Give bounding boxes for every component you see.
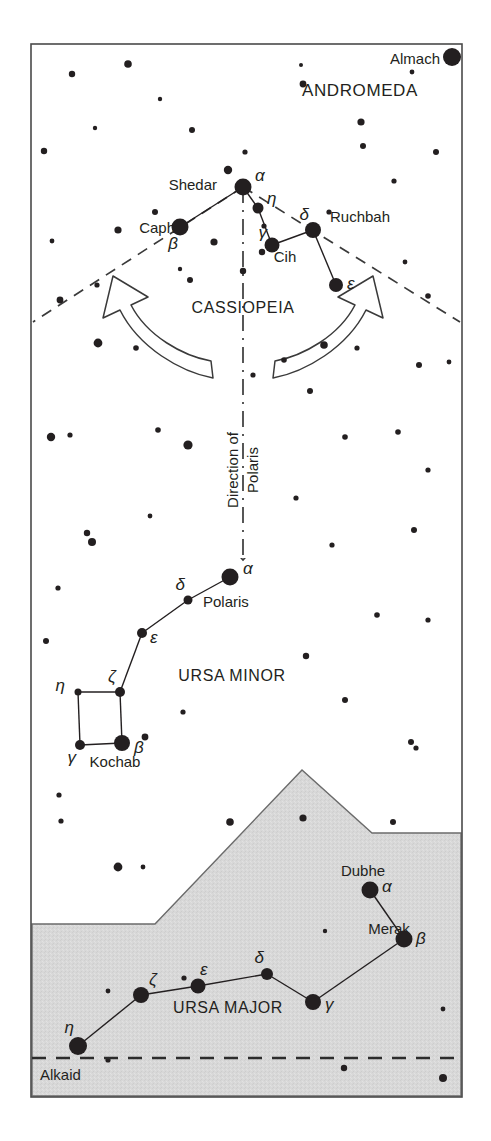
field-star: [106, 989, 111, 994]
bayer-label-δ: δ: [176, 575, 186, 594]
constellation-name-ursa-major: URSA MAJOR: [173, 999, 283, 1016]
constellation-name-cassiopeia: CASSIOPEIA: [192, 299, 295, 316]
direction-note-line-1: Direction of: [224, 431, 241, 508]
field-star: [416, 362, 422, 368]
field-star: [320, 341, 328, 349]
star-ursa-minor-γ: [75, 740, 85, 750]
direction-note-line-2: Polaris: [244, 447, 261, 493]
field-star: [50, 239, 55, 244]
star-cassiopeia-ε: [329, 278, 343, 292]
bayer-label-ζ: ζ: [108, 667, 117, 686]
field-star: [69, 71, 75, 77]
star-name-shedar: Shedar: [169, 176, 217, 193]
bayer-label-ε: ε: [347, 274, 355, 293]
star-ursa-major-ζ: [133, 987, 149, 1003]
bayer-label-η: η: [56, 676, 65, 695]
star-ursa-minor-η: [75, 689, 82, 696]
bayer-label-α: α: [382, 877, 393, 896]
star-ursa-major-γ: [305, 994, 321, 1010]
field-star: [408, 739, 414, 745]
bayer-label-ε: ε: [200, 960, 208, 979]
star-ursa-major-ε: [191, 979, 206, 994]
field-star: [58, 818, 63, 823]
field-star: [390, 819, 396, 825]
star-ursa-minor-ε: [137, 628, 147, 638]
field-star: [341, 1065, 347, 1071]
field-star: [148, 514, 153, 519]
field-star: [410, 70, 415, 75]
field-star: [425, 467, 430, 472]
field-star: [141, 865, 146, 870]
bayer-label-β: β: [167, 234, 178, 253]
field-star: [360, 143, 366, 149]
field-star: [114, 863, 123, 872]
field-star: [189, 127, 195, 133]
star-alkaid: [69, 1037, 87, 1055]
field-star: [226, 818, 234, 826]
field-star: [240, 268, 246, 274]
field-star: [133, 345, 139, 351]
bayer-label-α: α: [243, 559, 254, 578]
field-star: [425, 617, 430, 622]
field-star: [94, 339, 103, 348]
field-star: [57, 297, 64, 304]
bayer-label-ε: ε: [150, 628, 158, 647]
star-kochab: [114, 735, 130, 751]
field-star: [413, 745, 418, 750]
star-name-kochab: Kochab: [90, 753, 141, 770]
field-star: [55, 585, 60, 590]
field-star: [94, 282, 99, 287]
field-star: [307, 388, 313, 394]
field-star: [88, 538, 96, 546]
bayer-label-δ: δ: [255, 948, 265, 967]
field-star: [403, 260, 408, 265]
star-ursa-major-δ: [261, 968, 273, 980]
constellation-name-ursa-minor: URSA MINOR: [178, 667, 285, 684]
star-name-polaris: Polaris: [203, 593, 249, 610]
field-star: [357, 118, 364, 125]
field-star: [124, 60, 132, 68]
field-star: [181, 975, 186, 980]
field-star: [224, 166, 232, 174]
field-star: [158, 97, 162, 101]
star-ursa-minor-δ: [184, 596, 193, 605]
field-star: [93, 126, 97, 130]
field-star: [299, 814, 306, 821]
field-star: [84, 530, 90, 536]
field-star: [56, 792, 61, 797]
sky-map-canvas: αβηγδεαδεζηγβαβγδεζη ANDROMEDACASSIOPEIA…: [0, 0, 491, 1141]
star-name-cih: Cih: [274, 248, 297, 265]
star-polaris: [222, 569, 239, 586]
field-star: [114, 226, 121, 233]
star-name-caph: Caph: [139, 219, 175, 236]
star-chart-figure: αβηγδεαδεζηγβαβγδεζη ANDROMEDACASSIOPEIA…: [0, 0, 491, 1141]
bayer-label-α: α: [255, 166, 266, 185]
star-name-merak: Merak: [368, 920, 410, 937]
star-name-almach: Almach: [390, 50, 440, 67]
field-star: [342, 434, 348, 440]
field-star: [441, 1007, 446, 1012]
field-star: [281, 357, 287, 363]
star-name-alkaid: Alkaid: [40, 1066, 81, 1083]
star-name-ruchbah: Ruchbah: [330, 208, 390, 225]
field-star: [433, 149, 439, 155]
field-star: [155, 427, 161, 433]
bayer-label-ζ: ζ: [149, 970, 158, 989]
field-star: [259, 249, 265, 255]
field-star: [178, 267, 182, 271]
star-name-dubhe: Dubhe: [341, 862, 385, 879]
field-star: [250, 372, 255, 377]
field-star: [411, 527, 417, 533]
bayer-label-η: η: [267, 189, 276, 208]
field-star: [187, 277, 193, 283]
star-dubhe: [362, 882, 379, 899]
field-star: [303, 653, 309, 659]
field-star: [180, 709, 185, 714]
star-shedar: [235, 179, 252, 196]
field-star: [47, 433, 55, 441]
field-star: [43, 638, 49, 644]
field-star: [425, 293, 431, 299]
field-star: [447, 360, 452, 365]
star-almach: [443, 48, 461, 66]
field-star: [210, 238, 217, 245]
